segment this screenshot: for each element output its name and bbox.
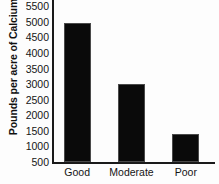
y-tick-label: 2500 — [17, 95, 49, 105]
y-axis-tick-labels: 5001000150020002500300035004000450050005… — [17, 0, 49, 163]
x-tick-label: Moderate — [104, 166, 158, 178]
x-axis-tick-labels: GoodModeratePoor — [52, 166, 219, 182]
x-axis-line — [52, 162, 215, 164]
bar — [118, 84, 145, 162]
y-tick-label: 4500 — [17, 32, 49, 42]
y-tick-label: 500 — [17, 157, 49, 167]
y-tick-label: 2000 — [17, 110, 49, 120]
y-tick-label: 1500 — [17, 126, 49, 136]
x-tick-label: Good — [50, 166, 104, 178]
y-tick-label: 5500 — [17, 1, 49, 11]
bar — [172, 134, 199, 162]
y-tick-label: 5000 — [17, 17, 49, 27]
x-tick-label: Poor — [159, 166, 213, 178]
y-tick-label: 3500 — [17, 64, 49, 74]
bar — [64, 23, 91, 162]
y-tick-label: 3000 — [17, 79, 49, 89]
plot-area — [52, 0, 215, 162]
y-tick-label: 4000 — [17, 48, 49, 58]
bar-chart: Pounds per acre of Calcium 5001000150020… — [0, 0, 219, 184]
y-tick-label: 1000 — [17, 141, 49, 151]
